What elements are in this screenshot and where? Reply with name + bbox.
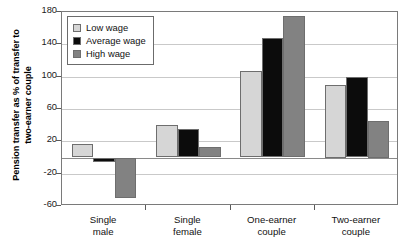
y-tick-label--20: -20	[27, 168, 57, 177]
bar-chart: Pension transfer as % of transfer to two…	[0, 0, 410, 249]
y-tick-label--60: -60	[27, 200, 57, 209]
bar	[240, 71, 262, 157]
bar	[346, 77, 368, 158]
bar	[283, 16, 305, 157]
bar	[178, 129, 200, 157]
y-tick-label-60: 60	[27, 103, 57, 112]
bar	[325, 85, 347, 158]
y-tick-label-180: 180	[27, 6, 57, 15]
legend-label: Low wage	[86, 23, 128, 33]
x-tick-mark	[230, 205, 231, 210]
bar	[262, 38, 284, 158]
bar	[72, 144, 94, 158]
bar	[199, 147, 221, 158]
legend-swatch-average-wage	[73, 37, 81, 45]
bar	[115, 158, 137, 198]
x-tick-mark	[314, 205, 315, 210]
y-axis-title-line-1: Pension transfer as % of transfer to	[10, 29, 22, 181]
legend-label: High wage	[86, 49, 130, 59]
y-tick-label-140: 140	[27, 38, 57, 47]
legend-swatch-low-wage	[73, 24, 81, 32]
x-tick-mark	[145, 205, 146, 210]
legend-label: Average wage	[86, 36, 146, 46]
chart-legend: Low wageAverage wageHigh wage	[67, 16, 154, 65]
bar-group	[146, 12, 230, 204]
bar	[93, 158, 115, 163]
y-tick-mark--60	[56, 205, 61, 206]
y-tick-label-20: 20	[27, 135, 57, 144]
legend-item-average-wage: Average wage	[73, 34, 146, 47]
bar	[368, 121, 390, 157]
legend-item-high-wage: High wage	[73, 47, 146, 60]
x-axis-label-two-earner-couple: Two-earnercouple	[301, 214, 410, 238]
bar-group	[231, 12, 315, 204]
legend-swatch-high-wage	[73, 50, 81, 58]
bar	[156, 125, 178, 157]
y-tick-label-100: 100	[27, 71, 57, 80]
legend-item-low-wage: Low wage	[73, 21, 146, 34]
bar-group	[315, 12, 399, 204]
